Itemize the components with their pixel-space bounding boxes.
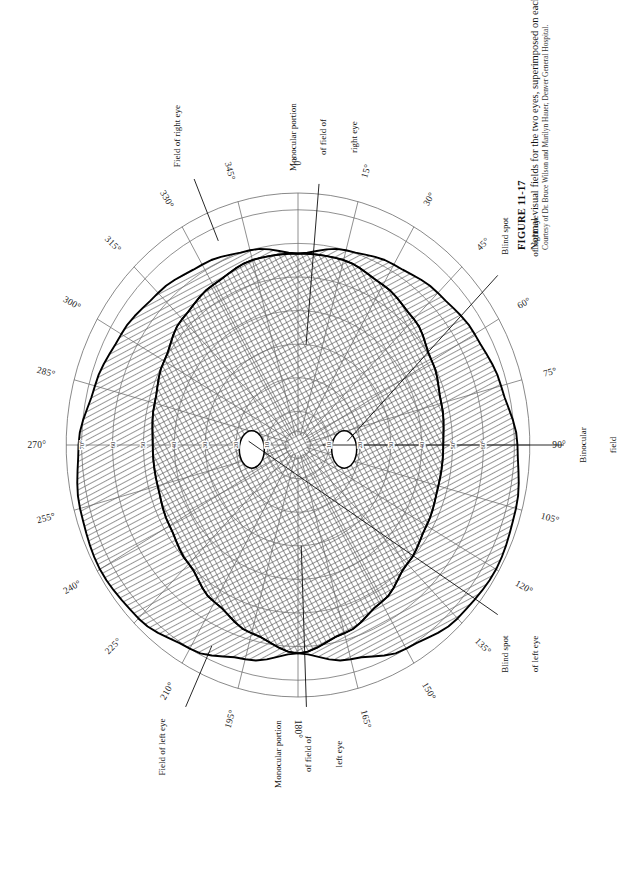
radial-label-left-20: 20 [357, 441, 364, 449]
annotation-blindspot-left: Blind spot of left eye [479, 636, 560, 673]
figure-number: FIGURE 11-17 [516, 0, 527, 250]
annotation-monocular-right-line3: right eye [348, 103, 358, 171]
radial-label-left-40: 40 [418, 441, 425, 449]
figure-title: Normal visual fields for the two eyes, s… [529, 0, 541, 250]
annotation-monocular-right-line1: Monocular portion [288, 103, 298, 171]
angle-label-270: 270° [27, 440, 46, 450]
annotation-monocular-left-line2: of field of [303, 720, 313, 788]
radial-label-left-30: 30 [387, 441, 394, 449]
annotation-monocular-right-line2: of field of [318, 103, 328, 171]
radial-label-right-30: 30 [202, 441, 209, 449]
radial-label-right-50: 50 [140, 441, 147, 449]
radial-label-right-70: 70° [78, 440, 85, 450]
figure-page: 0° 15° 30° 45° 60° 75° 90° 105° 120° 135… [0, 0, 637, 886]
annotation-monocular-right: Monocular portion of field of right eye [267, 103, 378, 171]
blind-spot-right [332, 431, 357, 468]
annotation-field-right: Field of right eye [152, 105, 202, 167]
annotation-field-left-text: Field of left eye [157, 718, 167, 775]
annotation-blindspot-right-line1: Blind spot [499, 215, 509, 256]
annotation-field-right-text: Field of right eye [172, 105, 182, 167]
figure-credit: Courtesy of Dr. Bruce Wilson and Marilyn… [542, 0, 551, 250]
annotation-monocular-left-line3: left eye [333, 720, 343, 788]
radial-label-left-60: 60° [480, 440, 487, 450]
annotation-blindspot-left-line2: of left eye [530, 636, 540, 673]
annotation-monocular-left-line1: Monocular portion [273, 720, 283, 788]
radial-label-right-20: 20 [233, 441, 240, 449]
annotation-field-left: Field of left eye [137, 718, 187, 775]
radial-label-right-60: 60 [109, 441, 116, 449]
radial-label-right-10: 10 [264, 441, 271, 449]
annotation-blindspot-left-line1: Blind spot [499, 636, 509, 673]
annotation-monocular-left: Monocular portion of field of left eye [252, 720, 363, 788]
annotation-binocular-line1: Binocular [578, 427, 588, 463]
radial-label-left-50: 50° [449, 440, 456, 450]
annotation-binocular-line2: field [608, 427, 618, 463]
figure-caption: FIGURE 11-17 Normal visual fields for th… [516, 0, 551, 250]
radial-label-right-40: 40 [171, 441, 178, 449]
annotation-binocular-field: Binocular field [558, 427, 637, 463]
radial-label-left-10: 10 [326, 441, 333, 449]
